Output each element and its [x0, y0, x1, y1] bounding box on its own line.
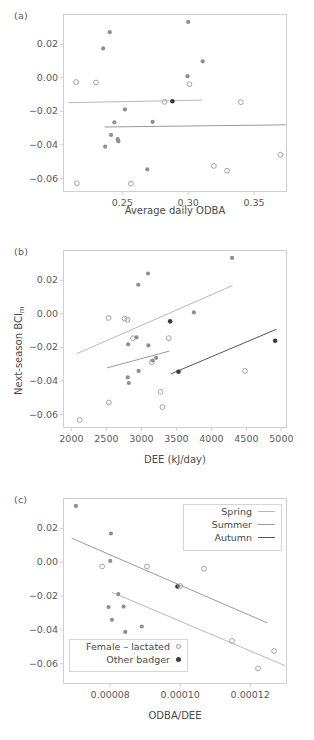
regression-line-autumn: [171, 329, 277, 374]
legend-label-spring: Spring: [221, 506, 252, 517]
open-circle-icon: [176, 644, 181, 649]
legend-item-autumn: Autumn: [184, 531, 281, 544]
data-point: [201, 59, 205, 63]
data-point: [170, 99, 175, 104]
data-point: [145, 167, 149, 171]
legend-label-summer: Summer: [212, 519, 252, 530]
y-tick-label: 0.02: [18, 38, 58, 49]
data-point: [106, 400, 111, 405]
data-point: [134, 335, 138, 339]
x-tick-label: 0.00010: [150, 689, 210, 700]
data-point: [151, 120, 155, 124]
data-point: [100, 564, 105, 569]
y-tick-label: −0.04: [18, 375, 58, 386]
panel-a-x-axis-title: Average daily ODBA: [63, 205, 287, 216]
data-point: [110, 618, 114, 622]
data-point: [145, 564, 150, 569]
x-tick-label: 5000: [251, 433, 311, 444]
data-point: [106, 605, 110, 609]
data-point: [108, 30, 112, 34]
legend-label-other-badger: Other badger: [106, 654, 170, 665]
data-point: [112, 120, 116, 124]
data-point: [146, 271, 150, 275]
data-point: [230, 256, 234, 260]
data-point: [101, 46, 105, 50]
data-point: [103, 145, 107, 149]
legend-item-summer: Summer: [184, 518, 281, 531]
data-point: [162, 99, 167, 104]
data-point: [272, 649, 277, 654]
data-point: [109, 531, 113, 535]
data-point: [202, 566, 207, 571]
data-point: [126, 375, 130, 379]
data-point: [230, 638, 235, 643]
data-point: [136, 283, 140, 287]
data-point: [187, 82, 192, 87]
data-point: [123, 630, 127, 634]
marker-legend: Female – lactated Other badger: [69, 639, 188, 672]
regression-line-summer: [107, 351, 169, 368]
data-point: [123, 107, 127, 111]
panel-b-data-layer: [0, 232, 314, 482]
data-point: [186, 20, 190, 24]
panel-b-x-axis-title: DEE (kJ/day): [63, 454, 287, 465]
panel-a: (a) 0.020.00−0.02−0.04−0.06 0.250.300.35…: [0, 0, 314, 232]
y-tick-label: −0.02: [18, 590, 58, 601]
data-point: [176, 369, 181, 374]
data-point: [168, 319, 173, 324]
data-point: [256, 666, 261, 671]
legend-line-summer: [258, 524, 275, 525]
data-point: [140, 624, 144, 628]
data-point: [126, 342, 130, 346]
y-tick-label: 0.00: [18, 556, 58, 567]
data-point: [185, 74, 189, 78]
y-tick-label: −0.06: [18, 658, 58, 669]
data-point: [166, 336, 171, 341]
data-point: [116, 139, 120, 143]
data-point: [116, 592, 120, 596]
legend-line-autumn: [258, 537, 275, 538]
y-tick-label: −0.02: [18, 105, 58, 116]
y-tick-label: −0.02: [18, 341, 58, 352]
legend-line-spring: [258, 511, 275, 512]
legend-label-female-lactated: Female – lactated: [86, 641, 170, 652]
data-point: [243, 369, 248, 374]
data-point: [127, 381, 131, 385]
data-point: [192, 310, 196, 314]
panel-c-x-axis-title: ODBA/DEE: [63, 710, 287, 721]
data-point: [108, 559, 112, 563]
data-point: [128, 181, 133, 186]
data-point: [273, 338, 278, 343]
legend-label-autumn: Autumn: [214, 532, 252, 543]
data-point: [160, 405, 165, 410]
data-point: [137, 369, 141, 373]
figure-container: (a) 0.020.00−0.02−0.04−0.06 0.250.300.35…: [0, 0, 314, 740]
data-point: [238, 100, 243, 105]
season-legend: Spring Summer Autumn: [183, 504, 282, 551]
panel-b: (b) 0.020.00−0.02−0.04−0.06 200025003000…: [0, 232, 314, 482]
y-tick-label: −0.06: [18, 173, 58, 184]
y-tick-label: −0.04: [18, 624, 58, 635]
y-tick-label: −0.04: [18, 139, 58, 150]
data-point: [154, 356, 158, 360]
data-point: [121, 604, 125, 608]
x-tick-label: 0.00012: [220, 689, 280, 700]
legend-item-spring: Spring: [184, 505, 281, 518]
regression-line-spring: [68, 100, 202, 103]
data-point: [151, 358, 155, 362]
data-point: [211, 164, 216, 169]
x-tick-label: 0.00008: [80, 689, 140, 700]
data-point: [106, 316, 111, 321]
panel-c: (c) 0.020.00−0.02−0.04−0.06 0.000080.000…: [0, 482, 314, 740]
data-point: [74, 181, 79, 186]
filled-circle-icon: [176, 657, 181, 662]
data-point: [77, 418, 82, 423]
y-tick-label: 0.02: [18, 522, 58, 533]
data-point: [278, 152, 283, 157]
data-point: [74, 80, 79, 85]
data-point: [158, 389, 163, 394]
data-point: [225, 168, 230, 173]
data-point: [109, 133, 113, 137]
legend-item-other-badger: Other badger: [70, 653, 187, 666]
regression-line-summer: [105, 125, 286, 127]
